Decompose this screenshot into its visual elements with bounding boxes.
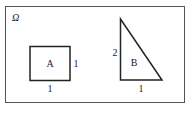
diagram-canvas: Ω A 1 1 B 2 1 (0, 0, 189, 114)
square-a-bottom-side-label: 1 (48, 83, 53, 94)
universe-frame (6, 7, 185, 103)
triangle-b-bottom-side-label: 1 (139, 83, 144, 94)
triangle-b-label: B (131, 57, 138, 68)
square-a-label: A (46, 58, 54, 69)
triangle-b-left-side-label: 2 (113, 47, 118, 58)
square-a-right-side-label: 1 (74, 58, 79, 69)
universe-label: Ω (12, 12, 19, 23)
